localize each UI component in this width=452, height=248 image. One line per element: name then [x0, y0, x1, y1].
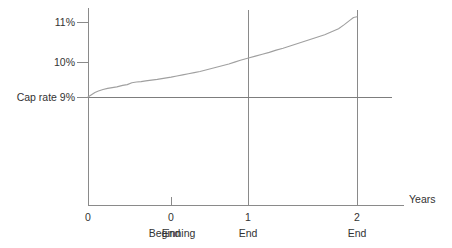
y-axis-label-10-percent: 10%	[20, 57, 75, 68]
x-axis-period-1-end: End	[228, 228, 268, 239]
x-axis-number-2-end: 2	[337, 212, 377, 223]
y-axis-label-11-percent: 11%	[20, 17, 75, 28]
y-axis-label-cap-rate: Cap rate 9%	[0, 92, 75, 103]
x-axis-number-0-end: 0	[151, 212, 191, 223]
x-axis-number-1-end: 1	[228, 212, 268, 223]
x-axis-title-years: Years	[409, 194, 435, 205]
chart-plot-area	[0, 0, 452, 248]
x-axis-period-0-end: End	[151, 228, 191, 239]
x-axis-period-2-end: End	[337, 228, 377, 239]
x-axis-number-0-beginning: 0	[68, 212, 108, 223]
cap-rate-yield-chart: 11% 10% Cap rate 9% 0 Beginning 0 End 1 …	[0, 0, 452, 248]
yield-rate-series-line	[88, 17, 357, 97]
